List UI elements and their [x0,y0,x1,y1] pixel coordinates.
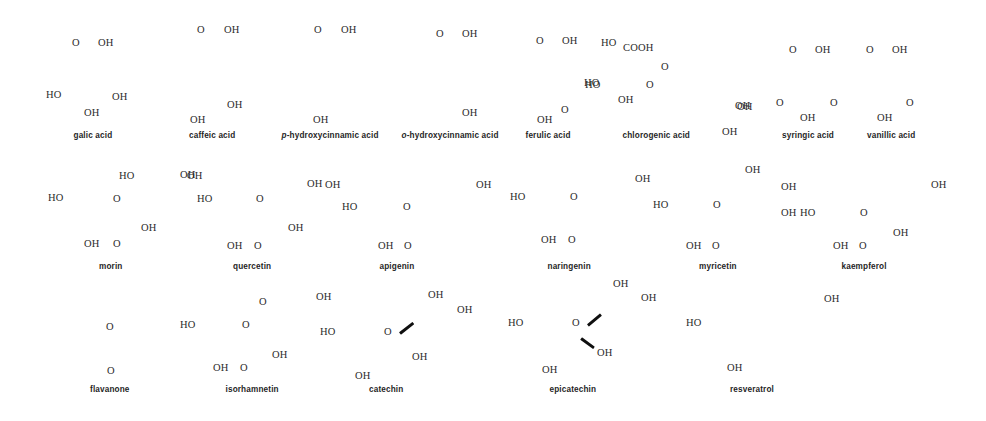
atom-label: O [713,200,721,211]
atom-label: COOH [623,43,654,54]
atom-label: OH [462,29,478,40]
atom-label: OH [98,38,114,49]
atom-label: O [259,297,267,308]
compound-name-apigenin: apigenin [380,263,415,271]
atom-label: O [404,241,412,252]
compound-name-text: resveratrol [730,385,774,394]
atom-label: OH [618,95,634,106]
atom-label: O [240,363,248,374]
atom-label: O [646,80,654,91]
atom-label: O [661,62,669,73]
atom-label: O [197,25,205,36]
atom-label: OH [722,127,738,138]
compound-name-text: quercetin [233,262,271,271]
atom-label: OH [378,241,394,252]
compound-name-text: hydroxycinnamic acid [410,131,499,140]
compound-name-text: kaempferol [842,262,887,271]
atom-label: O [536,36,544,47]
atom-label: HO [46,90,62,101]
atom-label: O [860,208,868,219]
atom-label: OH [745,165,761,176]
atom-label: OH [316,292,332,303]
compound-name-isorhamnetin: isorhamnetin [226,386,279,394]
compound-name-galic-acid: galic acid [74,132,113,140]
atom-label: OH [833,241,849,252]
atom-label: OH [781,182,797,193]
atom-label: OH [562,36,578,47]
compound-name-hydroxycinnamic-acid: o-hydroxycinnamic acid [402,132,499,140]
atom-label: OH [341,25,357,36]
atom-label: HO [342,202,358,213]
compound-name-text: syringic acid [782,131,834,140]
atom-label: O [242,320,250,331]
atom-label: HO [508,318,524,329]
atom-label: OH [307,179,323,190]
compound-name-resveratrol: resveratrol [730,386,774,394]
atom-label: OH [800,113,816,124]
atom-label: OH [224,25,240,36]
atom-label: O [107,366,115,377]
atom-label: OH [84,108,100,119]
compound-name-caffeic-acid: caffeic acid [189,132,235,140]
compound-name-text: catechin [369,385,403,394]
atom-label: OH [892,45,908,56]
compound-name-catechin: catechin [369,386,403,394]
atom-label: O [712,241,720,252]
atom-label: HO [180,320,196,331]
atom-label: HO [686,318,702,329]
atom-label: OH [815,45,831,56]
compound-name-ferulic-acid: ferulic acid [526,132,571,140]
atom-label: HO [585,80,601,91]
compound-name-chlorogenic-acid: chlorogenic acid [623,132,690,140]
atom-label: OH [686,241,702,252]
atom-label: OH [641,293,657,304]
compound-name-text: morin [99,262,123,271]
compound-name-text: apigenin [380,262,415,271]
atom-label: OH [190,115,206,126]
atom-label: O [254,241,262,252]
atom-label: O [72,38,80,49]
compound-name-text: epicatechin [550,385,597,394]
atom-label: OH [457,305,473,316]
compound-name-syringic-acid: syringic acid [782,132,834,140]
compound-name-text: naringenin [548,262,591,271]
atom-label: O [568,235,576,246]
atom-label: O [789,45,797,56]
compound-name-text: chlorogenic acid [623,131,690,140]
stereo-wedge-bond [587,313,602,326]
atom-label: OH [84,239,100,250]
atom-label: OH [476,180,492,191]
atom-label: OH [272,350,288,361]
atom-label: OH [213,363,229,374]
atom-label: OH [112,92,128,103]
compound-name-flavanone: flavanone [90,386,130,394]
atom-label: OH [824,294,840,305]
atom-label: HO [800,208,816,219]
compound-name-kaempferol: kaempferol [842,263,887,271]
atom-label: O [866,45,874,56]
compound-name-quercetin: quercetin [233,263,271,271]
compound-name-text: myricetin [699,262,737,271]
atom-label: OH [227,241,243,252]
atom-label: O [776,98,784,109]
atom-label: O [906,98,914,109]
atom-label: O [436,29,444,40]
atom-label: OH [537,115,553,126]
atom-label: OH [542,365,558,376]
atom-label: OH [288,223,304,234]
compound-name-epicatechin: epicatechin [550,386,597,394]
atom-label: OH [541,235,557,246]
atom-label: O [106,322,114,333]
compound-name-text: flavanone [90,385,130,394]
atom-label: OH [893,228,909,239]
atom-label: OH [227,100,243,111]
compound-name-text: caffeic acid [189,131,235,140]
atom-label: OH [597,348,613,359]
atom-label: OH [313,115,329,126]
atom-label: O [859,241,867,252]
atom-label: HO [601,38,617,49]
atom-label: O [113,194,121,205]
atom-label: OH [781,208,797,219]
atom-label: OH [355,371,371,382]
stereo-wedge-bond [580,337,595,349]
